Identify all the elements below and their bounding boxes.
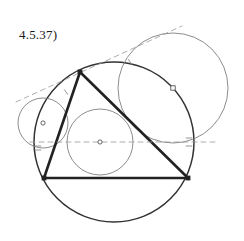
geometry-canvas	[0, 0, 244, 241]
segments-layer	[16, 26, 218, 178]
point-triangle-bottom-left-vertex	[42, 176, 47, 181]
tangency-tick-upper-left	[64, 89, 68, 94]
point-incircle-center	[98, 140, 102, 144]
side-AB	[44, 72, 80, 178]
point-triangle-apex-vertex	[78, 70, 83, 75]
point-upper-right-excircle-center	[171, 86, 175, 90]
point-triangle-bottom-right-vertex	[186, 176, 191, 181]
circles-layer	[18, 33, 228, 222]
geometry-figure: 4.5.37)	[0, 0, 244, 241]
point-left-excircle-center	[41, 121, 45, 125]
